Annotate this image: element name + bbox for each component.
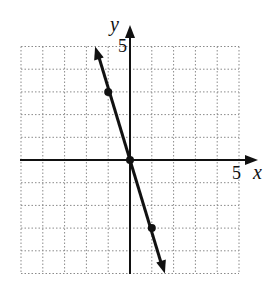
x-tick-label: 5	[232, 163, 241, 184]
line-arrow-icon	[94, 47, 104, 61]
data-point	[148, 224, 156, 232]
coordinate-plane	[0, 0, 274, 286]
data-point	[126, 156, 134, 164]
x-axis	[20, 155, 258, 165]
y-tick-label: 5	[118, 36, 127, 57]
y-axis-label: y	[110, 13, 119, 36]
x-axis-label: x	[253, 161, 262, 184]
line-arrow-icon	[156, 260, 166, 274]
data-point	[104, 88, 112, 96]
